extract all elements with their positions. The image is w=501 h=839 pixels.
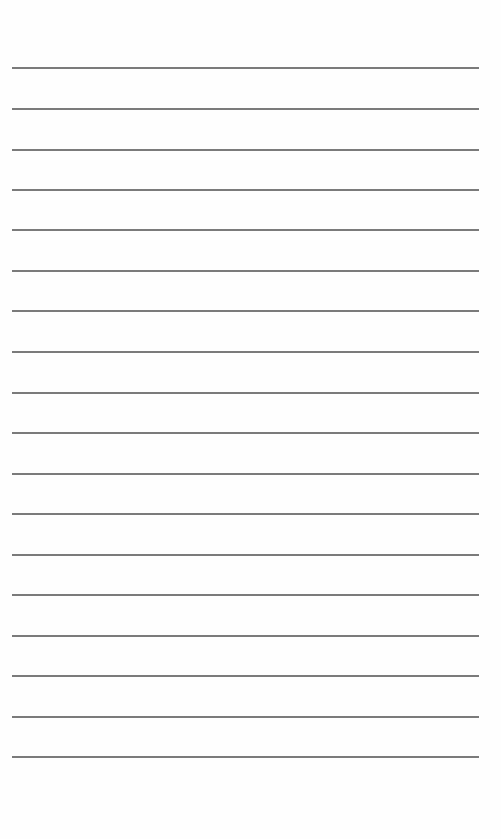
ruled-line bbox=[12, 108, 479, 110]
ruled-line bbox=[12, 149, 479, 151]
ruled-line bbox=[12, 675, 479, 677]
ruled-line bbox=[12, 270, 479, 272]
ruled-line bbox=[12, 756, 479, 758]
ruled-line bbox=[12, 392, 479, 394]
ruled-line bbox=[12, 229, 479, 231]
ruled-line bbox=[12, 351, 479, 353]
ruled-line bbox=[12, 189, 479, 191]
ruled-line bbox=[12, 716, 479, 718]
ruled-page bbox=[0, 0, 501, 839]
ruled-line bbox=[12, 67, 479, 69]
ruled-line bbox=[12, 473, 479, 475]
ruled-line bbox=[12, 310, 479, 312]
ruled-line bbox=[12, 594, 479, 596]
ruled-line bbox=[12, 513, 479, 515]
ruled-line bbox=[12, 635, 479, 637]
ruled-line bbox=[12, 554, 479, 556]
ruled-line bbox=[12, 432, 479, 434]
